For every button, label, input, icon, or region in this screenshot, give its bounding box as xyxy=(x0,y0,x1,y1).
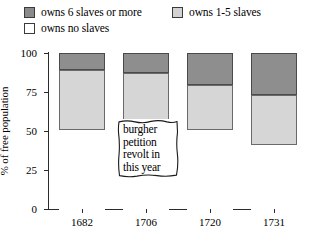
annotation-callout-1706: burgher petition revolt in this year xyxy=(117,119,179,178)
segment-1731-owns-none[interactable] xyxy=(251,145,297,211)
bar-1682[interactable] xyxy=(59,53,105,209)
y-tick-label-50: 50 xyxy=(26,126,37,137)
x-tick-label-1682: 1682 xyxy=(59,216,105,228)
y-tick-0: 0 xyxy=(44,209,48,210)
segment-1720-owns-none[interactable] xyxy=(187,130,233,211)
y-tick-100: 100 xyxy=(44,53,48,54)
y-tick-75: 75 xyxy=(44,92,48,93)
segment-1682-owns-none[interactable] xyxy=(59,130,105,211)
bar-1720[interactable] xyxy=(187,53,233,209)
segment-1731-owns-1-5[interactable] xyxy=(251,95,297,145)
legend-label-owns-1-5: owns 1-5 slaves xyxy=(189,6,261,18)
segment-1682-owns-1-5[interactable] xyxy=(59,70,105,130)
legend-swatch-dark-icon xyxy=(24,7,35,18)
bar-1731[interactable] xyxy=(251,53,297,209)
y-tick-label-75: 75 xyxy=(26,87,37,98)
x-tick-label-1720: 1720 xyxy=(187,216,233,228)
segment-1720-owns-1-5[interactable] xyxy=(187,85,233,130)
annotation-text: burgher petition revolt in this year xyxy=(123,123,174,173)
segment-1682-owns-6-or-more[interactable] xyxy=(59,53,105,70)
y-axis-title: % of free population xyxy=(0,87,10,176)
legend-item-owns-6-or-more: owns 6 slaves or more xyxy=(24,6,142,18)
segment-1706-owns-6-or-more[interactable] xyxy=(123,53,169,73)
x-tick-label-1731: 1731 xyxy=(251,216,297,228)
legend-swatch-white-icon xyxy=(24,23,35,34)
y-axis-line xyxy=(48,52,49,210)
segment-1731-owns-6-or-more[interactable] xyxy=(251,53,297,95)
annotation-line-4: this year xyxy=(123,161,174,174)
annotation-line-1: burgher xyxy=(123,123,174,136)
legend-item-owns-1-5: owns 1-5 slaves xyxy=(172,6,261,18)
segment-1720-owns-6-or-more[interactable] xyxy=(187,53,233,85)
x-tick-label-1706: 1706 xyxy=(123,216,169,228)
y-tick-label-25: 25 xyxy=(26,165,37,176)
y-tick-25: 25 xyxy=(44,170,48,171)
legend-swatch-light-icon xyxy=(172,7,183,18)
chart-legend: owns 6 slaves or more owns 1-5 slaves ow… xyxy=(24,6,309,40)
annotation-line-2: petition xyxy=(123,136,174,149)
annotation-line-3: revolt in xyxy=(123,148,174,161)
x-tick-1682 xyxy=(82,209,83,213)
x-tick-1706 xyxy=(146,209,147,213)
y-tick-label-100: 100 xyxy=(21,48,38,59)
y-tick-50: 50 xyxy=(44,131,48,132)
legend-label-owns-none: owns no slaves xyxy=(41,22,109,34)
y-tick-label-0: 0 xyxy=(32,204,38,215)
legend-item-owns-none: owns no slaves xyxy=(24,22,109,34)
stacked-bar-chart: owns 6 slaves or more owns 1-5 slaves ow… xyxy=(0,0,313,250)
legend-label-owns-6-or-more: owns 6 slaves or more xyxy=(41,6,142,18)
x-tick-1731 xyxy=(274,209,275,213)
x-tick-1720 xyxy=(210,209,211,213)
